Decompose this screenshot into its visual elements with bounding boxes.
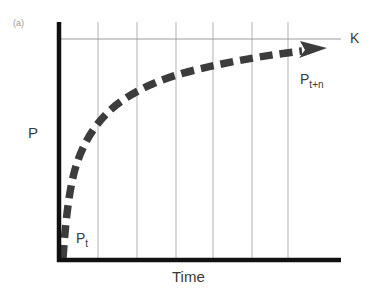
- gridlines: [98, 22, 288, 260]
- future-population-label-base: P: [300, 71, 309, 87]
- carrying-capacity-label: K: [350, 31, 359, 45]
- growth-curve: [63, 51, 302, 258]
- growth-curve-figure: (a) P Time K Pt Pt+n: [0, 0, 377, 288]
- plot-area: [0, 0, 377, 288]
- curve-arrowhead-icon: [299, 41, 327, 58]
- panel-label: (a): [13, 19, 24, 28]
- initial-population-label-base: P: [76, 230, 85, 246]
- initial-population-label-subscript: t: [85, 238, 88, 249]
- x-axis-label: Time: [172, 269, 205, 284]
- initial-population-label: Pt: [76, 231, 88, 249]
- y-axis-label: P: [28, 125, 38, 140]
- future-population-label: Pt+n: [300, 72, 324, 90]
- future-population-label-subscript: t+n: [309, 79, 323, 90]
